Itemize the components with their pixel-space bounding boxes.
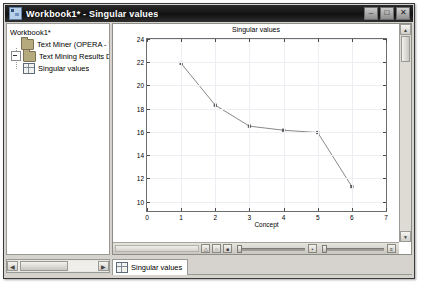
tree-item-results-dialog[interactable]: Text Mining Results Dial bbox=[7, 50, 109, 62]
minimize-button[interactable]: – bbox=[364, 7, 378, 20]
sheet-tab-singular-values[interactable]: Singular values bbox=[112, 259, 188, 275]
chart-title: Singular values bbox=[113, 26, 399, 33]
gridline-vertical bbox=[249, 39, 250, 211]
y-axis-tick-label: 16 bbox=[137, 128, 144, 135]
window-titlebar[interactable]: Workbook1* - Singular values – □ ✕ bbox=[5, 5, 413, 22]
scroll-up-arrow-icon[interactable]: ▲ bbox=[400, 24, 411, 35]
spreadsheet-icon bbox=[23, 63, 35, 74]
chart-canvas: Singular values Singular value % explain… bbox=[113, 24, 399, 242]
slider-rail bbox=[322, 248, 384, 251]
y-axis-tick-label: 24 bbox=[137, 36, 144, 43]
gridline-vertical bbox=[181, 39, 182, 211]
x-axis-tick bbox=[318, 208, 319, 211]
gridline-horizontal bbox=[147, 85, 386, 86]
x-axis-tick-label: 5 bbox=[316, 214, 320, 221]
window-controls: – □ ✕ bbox=[364, 7, 411, 20]
y-axis-tick-label: 18 bbox=[137, 105, 144, 112]
window-client-area: Workbook1* Text Miner (OPERA - Wagne Tex… bbox=[5, 22, 413, 277]
workbook-tree-panel[interactable]: Workbook1* Text Miner (OPERA - Wagne Tex… bbox=[6, 23, 110, 255]
zoom-window-icon[interactable]: ■ bbox=[223, 244, 232, 253]
toolbar-menu-icon[interactable]: ≡ bbox=[387, 244, 396, 253]
gridline-horizontal bbox=[147, 132, 386, 133]
scrollbar-track[interactable] bbox=[18, 261, 98, 271]
y-axis-tick bbox=[147, 85, 150, 86]
sheet-tab-label: Singular values bbox=[131, 263, 182, 272]
scrollbar-thumb[interactable] bbox=[401, 36, 410, 62]
x-axis-tick bbox=[147, 39, 148, 42]
tab-scroll-left-icon[interactable]: ◀ bbox=[7, 261, 18, 271]
gridline-horizontal bbox=[147, 202, 386, 203]
gridline-horizontal bbox=[147, 109, 386, 110]
x-axis-tick-label: 4 bbox=[282, 214, 286, 221]
toolbar-filler bbox=[115, 245, 199, 252]
horizontal-pan-slider[interactable] bbox=[237, 245, 305, 253]
y-axis-tick bbox=[147, 178, 150, 179]
y-axis-tick bbox=[383, 85, 386, 86]
x-axis-tick bbox=[352, 208, 353, 211]
y-axis-tick bbox=[147, 155, 150, 156]
tree-item-label: Text Miner (OPERA - Wagne bbox=[37, 40, 109, 49]
x-axis-tick-label: 3 bbox=[248, 214, 252, 221]
workbook-icon bbox=[9, 7, 22, 20]
tab-scroll-right-icon[interactable]: ▶ bbox=[98, 261, 109, 271]
y-axis-tick bbox=[383, 202, 386, 203]
close-button[interactable]: ✕ bbox=[396, 7, 410, 20]
x-axis-tick bbox=[249, 208, 250, 211]
series-polyline bbox=[181, 63, 352, 186]
pan-icon[interactable]: △ bbox=[201, 244, 210, 253]
gridline-vertical bbox=[352, 39, 353, 211]
tree-item-singular-values[interactable]: Singular values bbox=[7, 62, 109, 74]
scroll-down-arrow-icon[interactable]: ▼ bbox=[400, 231, 411, 242]
y-axis-tick bbox=[147, 132, 150, 133]
x-axis-tick bbox=[215, 39, 216, 42]
tab-navigation-scrollbar[interactable]: ◀ ▶ bbox=[6, 259, 110, 273]
y-axis-tick-label: 10 bbox=[137, 198, 144, 205]
maximize-button[interactable]: □ bbox=[380, 7, 394, 20]
close-icon: ✕ bbox=[400, 9, 407, 17]
y-axis-tick bbox=[147, 62, 150, 63]
x-axis-tick bbox=[147, 208, 148, 211]
minimize-icon: – bbox=[369, 9, 373, 17]
chart-vertical-scrollbar[interactable]: ▲ ▼ bbox=[399, 24, 411, 242]
y-axis-tick-label: 20 bbox=[137, 82, 144, 89]
x-axis-tick bbox=[386, 39, 387, 42]
tree-expander-minus-icon[interactable] bbox=[11, 51, 21, 61]
x-axis-tick bbox=[181, 39, 182, 42]
gridline-horizontal bbox=[147, 155, 386, 156]
y-axis-tick bbox=[383, 132, 386, 133]
series-line-singular-values bbox=[147, 39, 386, 211]
x-axis-tick bbox=[249, 39, 250, 42]
gridline-vertical bbox=[284, 39, 285, 211]
slider-knob[interactable] bbox=[322, 245, 327, 253]
y-axis-tick bbox=[147, 202, 150, 203]
gridline-horizontal bbox=[147, 62, 386, 63]
gridline-vertical bbox=[215, 39, 216, 211]
plot-area: 101214161820222401234567 bbox=[146, 38, 387, 212]
gridline-horizontal bbox=[147, 39, 386, 40]
horizontal-zoom-slider[interactable] bbox=[322, 245, 384, 253]
scrollbar-thumb[interactable] bbox=[20, 261, 68, 271]
y-axis-tick bbox=[383, 109, 386, 110]
tree-item-label: Text Mining Results Dial bbox=[39, 52, 109, 61]
separator-icon: • bbox=[308, 244, 317, 253]
application-window: Workbook1* - Singular values – □ ✕ Workb… bbox=[3, 3, 415, 279]
x-axis-tick-label: 7 bbox=[384, 214, 388, 221]
spreadsheet-icon bbox=[116, 262, 128, 273]
x-axis-tick bbox=[318, 39, 319, 42]
y-axis-tick bbox=[147, 109, 150, 110]
graph-toolbar[interactable]: △ ○ ■ • ≡ bbox=[113, 242, 399, 254]
chart-panel: Singular values Singular value % explain… bbox=[112, 23, 412, 255]
x-axis-tick-label: 2 bbox=[213, 214, 217, 221]
sheet-tabs: Singular values bbox=[112, 259, 412, 275]
slider-knob[interactable] bbox=[237, 245, 242, 253]
x-axis-tick bbox=[386, 208, 387, 211]
gridline-horizontal bbox=[147, 178, 386, 179]
y-axis-tick-label: 14 bbox=[137, 152, 144, 159]
folder-icon bbox=[23, 51, 36, 62]
y-axis-tick bbox=[383, 178, 386, 179]
y-axis-tick-label: 12 bbox=[137, 175, 144, 182]
zoom-out-icon[interactable]: ○ bbox=[212, 244, 221, 253]
x-axis-tick bbox=[284, 39, 285, 42]
x-axis-tick bbox=[284, 208, 285, 211]
gridline-vertical bbox=[318, 39, 319, 211]
